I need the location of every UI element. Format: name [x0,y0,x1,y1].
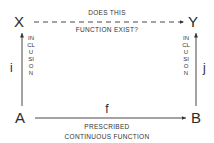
right-edge-label: INCLUSION [182,35,190,77]
bottom-edge-label-line2: CONTINUOUS FUNCTION [0,133,214,140]
top-edge-label-line1: DOES THIS [0,9,214,16]
left-edge-symbol: i [10,62,13,74]
right-edge-symbol: j [203,62,206,74]
top-edge-label-line2: FUNCTION EXIST? [0,26,214,33]
left-edge-label: INCLUSION [27,35,35,77]
bottom-edge-label-line1: PRESCRIBED [0,123,214,130]
bottom-edge-symbol: f [0,103,214,115]
